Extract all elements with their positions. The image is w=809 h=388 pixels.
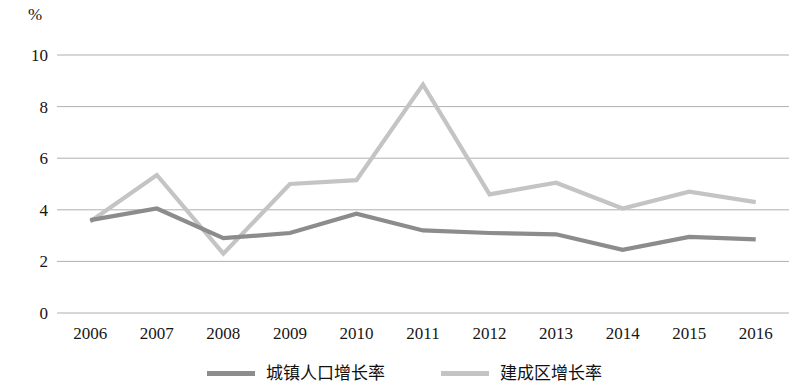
x-axis-tick-label: 2006 — [73, 322, 107, 346]
x-axis-tick-label: 2008 — [206, 322, 240, 346]
y-axis-labels: 0246810 — [0, 0, 48, 388]
y-axis-tick-label: 8 — [2, 98, 48, 115]
legend-label: 城镇人口增长率 — [266, 365, 385, 382]
x-axis-tick-label: 2013 — [539, 322, 573, 346]
line-chart: % 0246810 200620072008200920102011201220… — [0, 0, 809, 388]
x-axis-tick-label: 2011 — [406, 322, 439, 346]
y-axis-tick-label: 10 — [2, 47, 48, 64]
x-axis-tick-label: 2015 — [672, 322, 706, 346]
x-axis-tick-label: 2007 — [140, 322, 174, 346]
x-axis-tick-label: 2016 — [739, 322, 773, 346]
legend-entry[interactable]: 建成区增长率 — [441, 365, 602, 382]
series-lines — [90, 85, 755, 254]
x-axis-tick-label: 2009 — [273, 322, 307, 346]
x-axis-tick-label: 2010 — [339, 322, 373, 346]
legend-entry[interactable]: 城镇人口增长率 — [207, 365, 385, 382]
y-axis-tick-label: 6 — [2, 150, 48, 167]
line-swatch-light — [441, 371, 489, 376]
legend-label: 建成区增长率 — [500, 365, 602, 382]
y-axis-tick-label: 4 — [2, 201, 48, 218]
y-axis-tick-label: 0 — [2, 305, 48, 322]
line-swatch-dark — [207, 371, 255, 376]
chart-legend: 城镇人口增长率建成区增长率 — [0, 358, 809, 388]
x-axis-labels: 2006200720082009201020112012201320142015… — [57, 322, 789, 348]
x-axis-tick-label: 2014 — [606, 322, 640, 346]
y-axis-tick-label: 2 — [2, 253, 48, 270]
x-axis-tick-label: 2012 — [473, 322, 507, 346]
